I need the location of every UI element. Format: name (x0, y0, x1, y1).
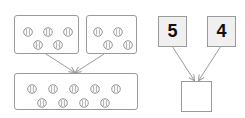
baseball-icon (48, 80, 58, 90)
baseball-icon (23, 23, 33, 33)
baseball-icon (69, 80, 79, 90)
baseball-icon (79, 94, 89, 104)
baseball-icon (63, 23, 73, 33)
baseball-icon (33, 36, 43, 46)
baseball-icon (123, 36, 133, 46)
addend-2-box: 4 (207, 16, 236, 47)
total-group-box (14, 73, 138, 110)
baseball-icon (103, 36, 113, 46)
baseball-icon (113, 23, 123, 33)
baseball-icon (27, 80, 37, 90)
baseball-icon (90, 80, 100, 90)
baseball-icon (37, 94, 47, 104)
baseball-icon (100, 94, 110, 104)
group-a-box (14, 15, 79, 54)
baseball-icon (53, 36, 63, 46)
baseball-icon (58, 94, 68, 104)
baseball-icon (93, 23, 103, 33)
answer-box[interactable] (181, 81, 212, 112)
addend-1-box: 5 (158, 16, 187, 47)
group-b-box (86, 15, 137, 54)
baseball-icon (111, 80, 121, 90)
baseball-icon (43, 23, 53, 33)
